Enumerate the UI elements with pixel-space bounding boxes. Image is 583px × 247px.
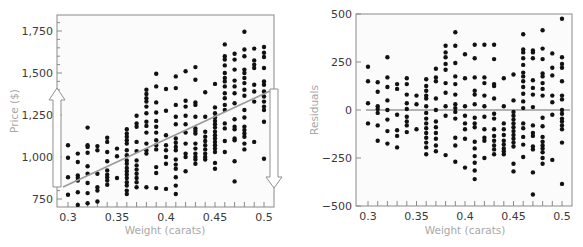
x-tick-label: 0.3 xyxy=(359,210,377,223)
data-point xyxy=(385,117,389,121)
data-point xyxy=(252,99,256,103)
data-point xyxy=(232,91,236,95)
data-point xyxy=(540,93,544,97)
data-point xyxy=(443,55,447,59)
x-tick-label: 0.5 xyxy=(255,211,273,224)
data-point xyxy=(424,136,428,140)
y-tick-label: −250 xyxy=(322,152,352,165)
data-point xyxy=(463,137,467,141)
data-point xyxy=(482,127,486,131)
data-point xyxy=(174,157,178,161)
x-tick-label: 0.4 xyxy=(157,211,175,224)
data-point xyxy=(385,98,389,102)
data-point xyxy=(424,96,428,100)
data-point xyxy=(473,140,477,144)
data-point xyxy=(482,156,486,160)
data-point xyxy=(453,102,457,106)
data-point xyxy=(134,158,138,162)
data-point xyxy=(453,92,457,96)
data-point xyxy=(521,74,525,78)
data-point xyxy=(453,44,457,48)
data-point xyxy=(134,167,138,171)
data-point xyxy=(531,92,535,96)
data-point xyxy=(76,151,80,155)
data-point xyxy=(154,165,158,169)
data-point xyxy=(262,157,266,161)
data-point xyxy=(223,103,227,107)
data-point xyxy=(385,141,389,145)
data-point xyxy=(434,131,438,135)
data-point xyxy=(134,176,138,180)
data-point xyxy=(223,42,227,46)
data-point xyxy=(183,99,187,103)
data-point xyxy=(164,162,168,166)
data-point xyxy=(395,82,399,86)
data-point xyxy=(213,167,217,171)
data-point xyxy=(473,92,477,96)
data-point xyxy=(560,66,564,70)
data-point xyxy=(125,192,129,196)
data-point xyxy=(521,106,525,110)
data-point xyxy=(521,92,525,96)
data-point xyxy=(482,93,486,97)
data-point xyxy=(223,139,227,143)
data-point xyxy=(560,140,564,144)
data-point xyxy=(405,130,409,134)
data-point xyxy=(434,125,438,129)
data-point xyxy=(213,150,217,154)
data-point xyxy=(203,135,207,139)
y-tick-label: 0 xyxy=(345,104,352,117)
data-point xyxy=(473,121,477,125)
data-point xyxy=(154,119,158,123)
data-point xyxy=(366,101,370,105)
data-point xyxy=(223,121,227,125)
data-point xyxy=(174,136,178,140)
data-point xyxy=(482,139,486,143)
data-point xyxy=(376,123,380,127)
data-point xyxy=(154,100,158,104)
data-point xyxy=(540,57,544,61)
data-point xyxy=(521,63,525,67)
data-point xyxy=(463,114,467,118)
data-point xyxy=(242,81,246,85)
data-point xyxy=(242,76,246,80)
data-point xyxy=(511,121,515,125)
data-point xyxy=(511,98,515,102)
y-tick-label: 1,250 xyxy=(22,109,54,122)
data-point xyxy=(115,176,119,180)
y-tick-label: 1,500 xyxy=(22,67,54,80)
data-point xyxy=(463,127,467,131)
data-point xyxy=(443,68,447,72)
data-point xyxy=(540,146,544,150)
data-point xyxy=(531,134,535,138)
data-point xyxy=(213,125,217,129)
data-point xyxy=(242,30,246,34)
data-point xyxy=(511,129,515,133)
data-point xyxy=(242,115,246,119)
data-point xyxy=(502,127,506,131)
data-point xyxy=(376,80,380,84)
data-point xyxy=(193,65,197,69)
data-point xyxy=(434,137,438,141)
data-point xyxy=(434,143,438,147)
data-point xyxy=(232,159,236,163)
data-point xyxy=(424,116,428,120)
data-point xyxy=(540,81,544,85)
y-tick-label: 250 xyxy=(331,56,352,69)
data-point xyxy=(492,112,496,116)
data-point xyxy=(223,71,227,75)
data-point xyxy=(66,175,70,179)
data-point xyxy=(463,52,467,56)
data-point xyxy=(531,50,535,54)
left-x-axis-title: Weight (carats) xyxy=(125,224,206,236)
data-point xyxy=(463,104,467,108)
data-point xyxy=(203,115,207,119)
data-point xyxy=(105,150,109,154)
data-point xyxy=(144,99,148,103)
data-point xyxy=(134,114,138,118)
data-point xyxy=(482,104,486,108)
data-point xyxy=(144,120,148,124)
data-point xyxy=(183,155,187,159)
data-point xyxy=(213,161,217,165)
data-point xyxy=(174,162,178,166)
